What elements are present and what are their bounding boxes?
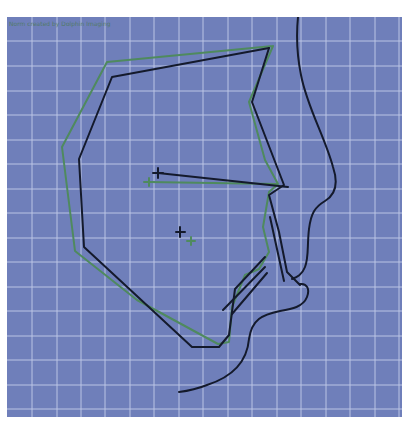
tracing-svg: Norm created by Dolphin Imaging (7, 17, 402, 417)
background (7, 17, 402, 417)
ceph-diagram-canvas: Norm created by Dolphin Imaging (7, 17, 402, 417)
diagram-caption: Norm created by Dolphin Imaging (9, 20, 111, 28)
